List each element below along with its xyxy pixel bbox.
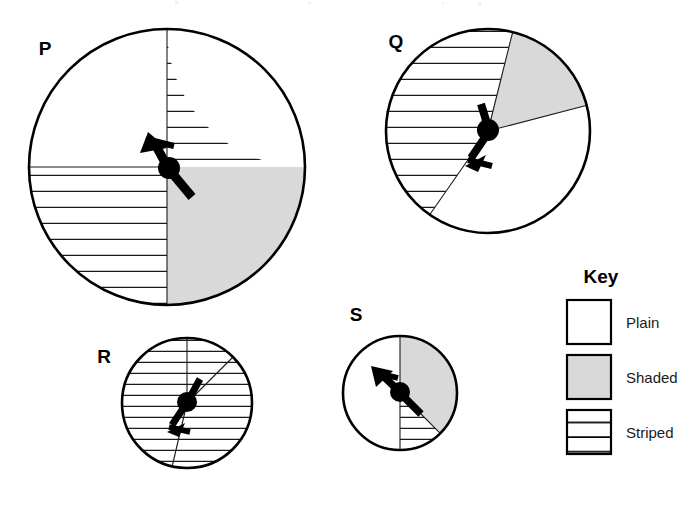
spinner-q-hub <box>477 119 499 141</box>
spinner-p-label: P <box>39 38 52 59</box>
spinner-s-label: S <box>350 304 363 325</box>
key-item-label: Striped <box>626 424 674 441</box>
scan-artifacts <box>175 1 481 5</box>
spinner-p: P <box>29 29 305 305</box>
key-item-plain: Plain <box>567 300 659 344</box>
shaded-swatch <box>567 355 611 399</box>
figure-canvas: P Q <box>0 0 697 509</box>
key-item-label: Plain <box>626 314 659 331</box>
key-item-striped: Striped <box>567 410 674 454</box>
key-title: Key <box>584 266 619 287</box>
plain-swatch <box>567 300 611 344</box>
spinner-r-hub <box>177 392 197 412</box>
striped-swatch <box>567 410 611 454</box>
spinner-r: R <box>97 338 252 468</box>
key-item-shaded: Shaded <box>567 355 678 399</box>
spinner-p-region-striped-top <box>167 29 305 167</box>
spinner-p-hub <box>158 157 180 179</box>
spinners-figure: P Q <box>0 0 697 509</box>
spinner-p-region-striped-bottom <box>29 167 167 305</box>
spinner-q-label: Q <box>389 31 404 52</box>
key-item-label: Shaded <box>626 369 678 386</box>
spinner-s-hub <box>390 382 410 402</box>
key-panel: Key Plain Shaded Striped <box>567 266 678 454</box>
spinner-s: S <box>343 304 457 450</box>
spinner-q: Q <box>385 29 630 291</box>
spinner-r-label: R <box>97 346 111 367</box>
